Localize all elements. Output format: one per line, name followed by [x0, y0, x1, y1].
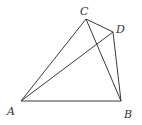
geometry-diagram: C D A B: [0, 0, 142, 125]
label-d: D: [115, 23, 125, 36]
label-b: B: [123, 108, 132, 121]
segment-cd: [86, 19, 113, 32]
label-a: A: [6, 105, 15, 118]
label-c: C: [80, 5, 89, 18]
